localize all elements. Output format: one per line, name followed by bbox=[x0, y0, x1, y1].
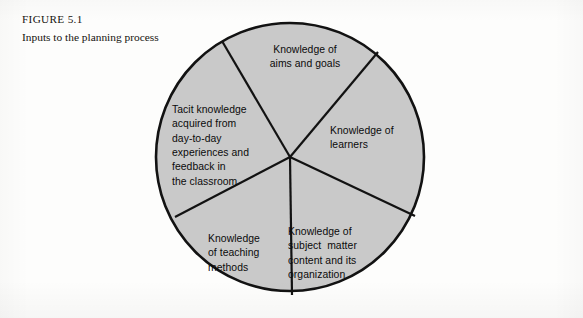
scanned-page: FIGURE 5.1 Inputs to the planning proces… bbox=[0, 0, 583, 318]
pie-label-tacit-knowledge: Tacit knowledge acquired from day-to-day… bbox=[172, 103, 272, 189]
pie-label-learners: Knowledge of learners bbox=[330, 124, 434, 153]
pie-label-aims-and-goals: Knowledge of aims and goals bbox=[253, 43, 357, 72]
pie-label-teaching-methods: Knowledge of teaching methods bbox=[208, 232, 304, 275]
pie-label-subject-matter: Knowledge of subject matter content and … bbox=[288, 225, 400, 282]
pie-diagram: Knowledge of aims and goals Knowledge of… bbox=[0, 0, 583, 318]
